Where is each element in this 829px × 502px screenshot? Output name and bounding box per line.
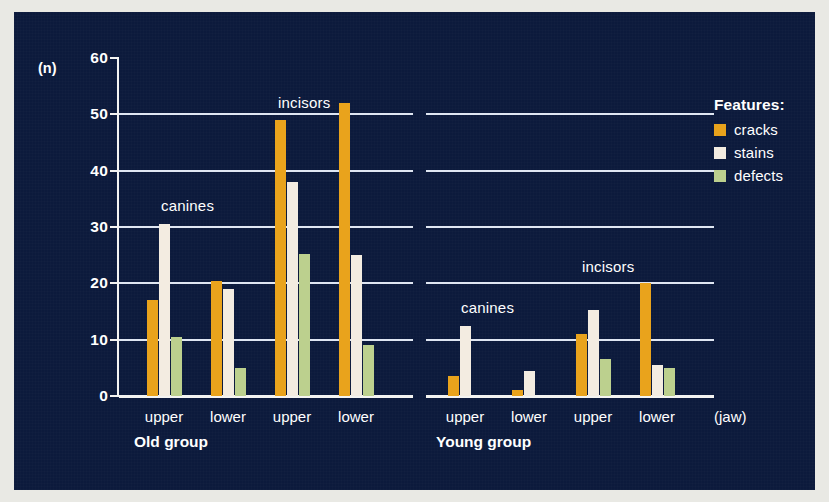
legend-swatch-defects xyxy=(714,170,726,182)
y-tick-40 xyxy=(110,170,119,172)
bar-cracks xyxy=(339,103,350,396)
legend-label-cracks: cracks xyxy=(734,121,778,138)
bar-stains xyxy=(460,326,471,396)
legend-label-stains: stains xyxy=(734,144,774,161)
y-tick-label-50: 50 xyxy=(68,105,108,123)
y-tick-label-40: 40 xyxy=(68,162,108,180)
plot-area: (n) 6050403020100 canines incisors canin… xyxy=(14,12,815,490)
bar-cracks xyxy=(275,120,286,396)
jaw-label-old-incisors-upper: upper xyxy=(257,408,327,425)
y-tick-60 xyxy=(110,57,119,59)
y-tick-label-wrap-30: 30 xyxy=(52,218,108,234)
y-tick-label-wrap-10: 10 xyxy=(52,331,108,347)
chart-plate: (n) 6050403020100 canines incisors canin… xyxy=(14,12,815,490)
gridline-20-panel-1 xyxy=(426,282,714,284)
bar-cracks xyxy=(147,300,158,396)
legend-label-defects: defects xyxy=(734,167,783,184)
bar-cracks xyxy=(512,390,523,396)
bar-stains xyxy=(223,289,234,396)
figure: (n) 6050403020100 canines incisors canin… xyxy=(0,0,829,502)
gridline-50-panel-0 xyxy=(119,113,413,115)
bar-stains xyxy=(159,224,170,396)
gridline-40-panel-0 xyxy=(119,170,413,172)
bar-defects xyxy=(235,368,246,396)
bar-cracks xyxy=(576,334,587,396)
y-tick-0 xyxy=(110,395,119,397)
y-tick-label-60: 60 xyxy=(68,49,108,67)
gridline-50-panel-1 xyxy=(426,113,714,115)
jaw-label-young-incisors-upper: upper xyxy=(558,408,628,425)
bar-defects xyxy=(299,254,310,396)
jaw-label-young-incisors-lower: lower xyxy=(622,408,692,425)
tooth-label-young-canines: canines xyxy=(461,299,514,316)
y-tick-label-wrap-0: 0 xyxy=(52,387,108,403)
legend-item-cracks[interactable]: cracks xyxy=(714,121,785,138)
jaw-label-old-canines-lower: lower xyxy=(193,408,263,425)
bar-stains xyxy=(588,310,599,396)
bar-defects xyxy=(600,359,611,396)
legend-item-defects[interactable]: defects xyxy=(714,167,785,184)
y-tick-10 xyxy=(110,339,119,341)
bar-cracks xyxy=(211,281,222,396)
bar-defects xyxy=(363,345,374,396)
jaw-label-young-canines-upper: upper xyxy=(430,408,500,425)
bar-cracks xyxy=(640,283,651,396)
legend-title: Features: xyxy=(714,96,785,114)
bar-defects xyxy=(171,337,182,396)
tooth-label-old-canines: canines xyxy=(161,197,214,214)
y-tick-label-0: 0 xyxy=(68,387,108,405)
bar-stains xyxy=(524,371,535,396)
y-tick-label-wrap-60: 60 xyxy=(52,49,108,65)
bar-cracks xyxy=(448,376,459,396)
y-tick-label-20: 20 xyxy=(68,274,108,292)
bar-stains xyxy=(652,365,663,396)
y-tick-20 xyxy=(110,282,119,284)
group-label-old: Old group xyxy=(134,433,208,451)
bar-defects xyxy=(664,368,675,396)
y-tick-label-30: 30 xyxy=(68,218,108,236)
legend: Features: cracksstainsdefects xyxy=(714,96,785,190)
bar-stains xyxy=(287,182,298,396)
gridline-30-panel-1 xyxy=(426,226,714,228)
legend-swatch-cracks xyxy=(714,124,726,136)
legend-items: cracksstainsdefects xyxy=(714,121,785,184)
y-tick-50 xyxy=(110,113,119,115)
bar-stains xyxy=(351,255,362,396)
y-tick-label-wrap-20: 20 xyxy=(52,274,108,290)
jaw-label-young-canines-lower: lower xyxy=(494,408,564,425)
x-axis-caption: (jaw) xyxy=(714,408,747,425)
jaw-label-old-canines-upper: upper xyxy=(129,408,199,425)
gridline-40-panel-1 xyxy=(426,170,714,172)
y-tick-label-wrap-50: 50 xyxy=(52,105,108,121)
y-tick-label-wrap-40: 40 xyxy=(52,162,108,178)
tooth-label-young-incisors: incisors xyxy=(582,258,634,275)
y-tick-30 xyxy=(110,226,119,228)
jaw-label-old-incisors-lower: lower xyxy=(321,408,391,425)
legend-item-stains[interactable]: stains xyxy=(714,144,785,161)
legend-swatch-stains xyxy=(714,147,726,159)
group-label-young: Young group xyxy=(436,433,531,451)
y-tick-label-10: 10 xyxy=(68,331,108,349)
tooth-label-old-incisors: incisors xyxy=(278,94,330,111)
